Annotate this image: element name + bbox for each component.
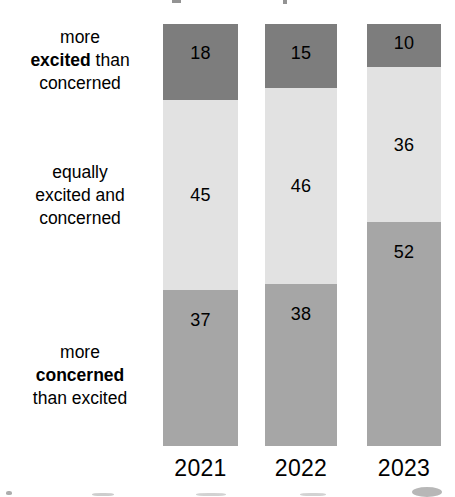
row-label-equally-line2: excited and xyxy=(0,184,160,207)
row-label-equally-line3: concerned xyxy=(0,207,160,230)
row-label-more-concerned: more concerned than excited xyxy=(0,341,160,410)
row-label-more-concerned-emphasis: concerned xyxy=(0,364,160,387)
bar-2021: 18 45 37 xyxy=(163,24,238,446)
row-label-more-concerned-line3: than excited xyxy=(0,387,160,410)
bar-2023-value-more-excited: 10 xyxy=(394,34,414,52)
bar-2021-value-more-concerned: 37 xyxy=(190,311,210,329)
row-label-more-excited-line1: more xyxy=(0,26,160,49)
bar-2022-value-more-concerned: 38 xyxy=(291,305,311,323)
row-label-equally-line1: equally xyxy=(0,161,160,184)
bar-2023-segment-more-concerned: 52 xyxy=(367,222,441,446)
row-label-more-concerned-line1: more xyxy=(0,341,160,364)
bar-2023-value-equally: 36 xyxy=(394,136,414,154)
row-label-equally-excited-and-concerned: equally excited and concerned xyxy=(0,161,160,230)
bar-2022-segment-equally: 46 xyxy=(265,88,337,284)
bar-2023: 10 36 52 xyxy=(367,24,441,446)
bar-2021-value-equally: 45 xyxy=(190,186,210,204)
bar-2022: 15 46 38 xyxy=(265,24,337,446)
bar-2021-segment-more-excited: 18 xyxy=(163,24,238,100)
bar-2021-segment-more-concerned: 37 xyxy=(163,290,238,446)
bar-2023-segment-equally: 36 xyxy=(367,67,441,222)
bar-2022-segment-more-excited: 15 xyxy=(265,24,337,88)
row-label-more-excited-line2-rest: than xyxy=(91,50,130,70)
bar-2021-segment-equally: 45 xyxy=(163,100,238,290)
row-label-more-excited-emphasis: excited xyxy=(30,50,90,70)
bar-2023-segment-more-excited: 10 xyxy=(367,24,441,67)
row-label-more-excited: more excited than concerned xyxy=(0,26,160,95)
bar-2022-value-more-excited: 15 xyxy=(291,44,311,62)
bar-2022-segment-more-concerned: 38 xyxy=(265,284,337,446)
row-label-more-excited-line2: excited than xyxy=(0,49,160,72)
cropped-title-artifact xyxy=(0,0,455,6)
axis-label-2022: 2022 xyxy=(265,455,337,482)
cropped-footer-artifact xyxy=(0,485,455,497)
stacked-bar-chart: more excited than concerned equally exci… xyxy=(0,0,455,497)
bar-2023-value-more-concerned: 52 xyxy=(394,243,414,261)
row-label-more-excited-line3: concerned xyxy=(0,72,160,95)
axis-label-2021: 2021 xyxy=(163,455,238,482)
bar-2021-value-more-excited: 18 xyxy=(190,44,210,62)
axis-label-2023: 2023 xyxy=(367,455,441,482)
bar-2022-value-equally: 46 xyxy=(291,177,311,195)
